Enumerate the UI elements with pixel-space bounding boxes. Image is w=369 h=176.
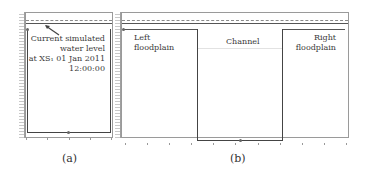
channel-label: Channel [226,37,260,47]
x-tick [111,138,112,140]
x-tick [302,143,303,145]
x-tick [69,138,70,140]
channel-divider [198,48,282,49]
right-floodplain-ground [283,29,345,30]
panel-a: Current simulated water level at XS₁ 01 … [0,0,115,176]
annotation-line-2: water level [60,44,105,54]
panel-b: Left floodplain Channel Right floodplain… [115,0,369,176]
annotation-line-4: 12:00:00 [69,64,105,74]
x-tick [191,143,192,145]
x-tick [169,143,170,145]
x-tick [213,143,214,145]
point-marker [122,28,125,31]
annotation-line-1: Current simulated [31,34,105,44]
x-tick [26,138,27,140]
annotation-line-3: at XS₁ 01 Jan 2011 [29,54,105,64]
left-floodplain-label-2: floodplain [134,43,174,53]
bed-marker [239,139,242,142]
x-tick [324,143,325,145]
right-floodplain-label-2: floodplain [296,43,336,53]
panel-caption: (a) [62,152,77,165]
x-axis-ticks [125,143,347,145]
x-tick [125,143,126,145]
right-floodplain-label-1: Right [314,33,336,43]
top-reference-line [122,23,348,24]
bed-marker [67,131,70,134]
x-tick [90,138,91,140]
x-tick [346,143,347,145]
x-tick [147,143,148,145]
left-floodplain-label-1: Left [134,33,150,43]
water-level-line [26,20,112,21]
left-floodplain-ground [123,29,197,30]
x-tick [280,143,281,145]
water-level-line [122,20,348,21]
panel-caption: (b) [230,152,246,165]
x-tick [258,143,259,145]
x-tick [235,143,236,145]
x-axis-ticks [26,138,112,140]
point-marker [26,28,29,31]
x-tick [47,138,48,140]
top-reference-line [26,23,112,24]
